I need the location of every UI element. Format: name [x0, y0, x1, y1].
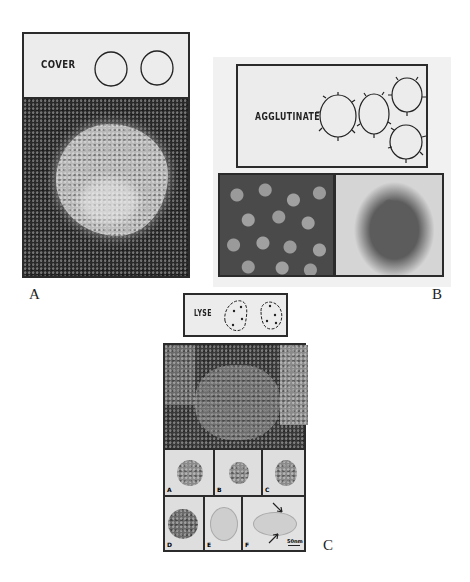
subpanel-label-c: C: [265, 486, 269, 493]
subpanel-a: A: [165, 450, 213, 495]
panel-label-a: A: [29, 286, 40, 303]
subpanel-c: C: [263, 450, 304, 495]
adjacent-particle: [280, 345, 308, 425]
subpanel-label-b: B: [217, 486, 222, 493]
panel-c-schematic: LYSE: [183, 293, 288, 337]
schematic-label-lyse: LYSE: [194, 309, 212, 318]
panel-b-micrographs: [218, 173, 444, 277]
panel-c-figure: A B C D E F 50nm: [163, 343, 306, 552]
adjacent-particle-left: [165, 345, 195, 405]
schematic-label-agglutinate: AGGLUTINATE: [255, 111, 320, 122]
arrow-icon: [267, 531, 281, 545]
schematic-label-cover: COVER: [41, 58, 75, 71]
virus-circles-icon: [94, 42, 184, 92]
agglutinated-virus-icon: [316, 72, 428, 166]
subpanel-label-a: A: [167, 486, 172, 493]
scale-bar-label: 50nm: [287, 538, 303, 544]
particle-e: [210, 507, 238, 541]
particle-d: [168, 509, 198, 539]
panel-label-b: B: [432, 286, 442, 303]
micrograph-agglutinated: [336, 175, 442, 275]
particle-c: [275, 460, 297, 486]
lysed-particle: [195, 365, 280, 440]
panel-c-micrograph: [165, 345, 304, 448]
panel-a: COVER: [22, 32, 190, 278]
virus-particle-highlight: [79, 179, 139, 224]
scale-bar: [288, 545, 300, 546]
panel-a-micrograph: [24, 99, 188, 276]
particle-b: [229, 462, 249, 484]
subpanel-label-e: E: [207, 541, 211, 548]
subpanel-b: B: [215, 450, 261, 495]
panel-a-schematic: COVER: [24, 34, 188, 99]
lysed-virus-icon: [221, 297, 287, 335]
subpanel-d: D: [165, 497, 203, 550]
panel-label-c: C: [323, 537, 333, 554]
subpanel-f: F 50nm: [243, 497, 304, 550]
particle-a: [177, 460, 203, 486]
micrograph-dispersed: [220, 175, 333, 275]
panel-b-schematic: AGGLUTINATE: [236, 64, 428, 168]
subpanel-label-d: D: [167, 541, 172, 548]
arrow-icon: [271, 501, 285, 515]
subpanel-e: E: [205, 497, 241, 550]
subpanel-label-f: F: [245, 541, 249, 548]
